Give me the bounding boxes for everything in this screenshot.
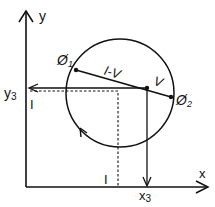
y3-label: y3 xyxy=(4,85,17,102)
phi2-label: Ø2 xyxy=(175,92,192,109)
phi1-point xyxy=(74,68,78,72)
x-tick-label: I xyxy=(104,172,108,187)
x3-label: x3 xyxy=(139,188,152,204)
x-axis-label: x xyxy=(199,166,206,181)
x-axis xyxy=(26,181,208,193)
y-tick-label: I xyxy=(30,97,34,112)
phi2-point xyxy=(169,95,173,99)
phi1-label: Ø1 xyxy=(56,52,73,69)
y-axis-label: y xyxy=(39,8,46,24)
v-segment-label: V xyxy=(152,73,166,90)
circle-projection-diagram: y x y3 x3 Ø1 Ø2 I-V V I I xyxy=(0,0,215,207)
